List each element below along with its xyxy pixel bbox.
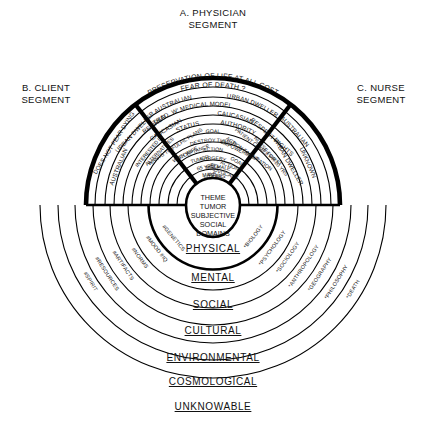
ring-label-unknowable: UNKNOWABLE: [175, 401, 252, 412]
title-nurse-segment-line2: SEGMENT: [356, 94, 405, 105]
ring-label-cosmological: COSMOLOGICAL: [169, 376, 257, 387]
ring-label-group-physical: PHYSICAL: [186, 243, 240, 254]
core-line-tumor: TUMOR: [200, 202, 226, 211]
title-physician-segment: A. PHYSICIAN: [180, 7, 246, 18]
ring-label-mental: MENTAL: [191, 272, 234, 283]
ring-label-group-unknowable: UNKNOWABLE: [175, 401, 252, 412]
science-label-artifacts: #ARTIFACTS: [111, 249, 135, 281]
title-nurse-segment: C. NURSE: [357, 82, 405, 93]
ring-label-social: SOCIAL: [193, 299, 233, 310]
core-line-subjective: SUBJECTIVE: [191, 211, 236, 220]
physician-arc-goal: GOAL: [206, 128, 221, 134]
science-label-spirit: #SPIRIT: [83, 270, 100, 292]
title-client-segment: B. CLIENT: [22, 82, 70, 93]
segment-wheel-diagram: A. PHYSICIAN SEGMENT B. CLIENT SEGMENT C…: [0, 0, 426, 421]
ring-label-group-environmental: ENVIRONMENTAL: [166, 352, 259, 363]
ring-label-cultural: CULTURAL: [185, 325, 242, 336]
ring-label-group-social: SOCIAL: [193, 299, 233, 310]
center-core: THEME TUMOR SUBJECTIVE SOCIAL DOMAINS: [186, 178, 240, 238]
science-label-biology: *BIOLOGY: [242, 223, 264, 249]
ring-label-environmental: ENVIRONMENTAL: [166, 352, 259, 363]
science-label-death: *DEATH: [345, 278, 361, 299]
title-physician-segment-line2: SEGMENT: [188, 19, 237, 30]
ring-label-group-cosmological: COSMOLOGICAL: [169, 376, 257, 387]
core-line-domains: DOMAINS: [196, 229, 230, 238]
ring-label-group-cultural: CULTURAL: [185, 325, 242, 336]
core-line-theme: THEME: [200, 193, 225, 202]
ring-label-physical: PHYSICAL: [186, 243, 240, 254]
title-client-segment-line2: SEGMENT: [21, 94, 70, 105]
core-line-social: SOCIAL: [200, 220, 226, 229]
ring-label-group-mental: MENTAL: [191, 272, 234, 283]
